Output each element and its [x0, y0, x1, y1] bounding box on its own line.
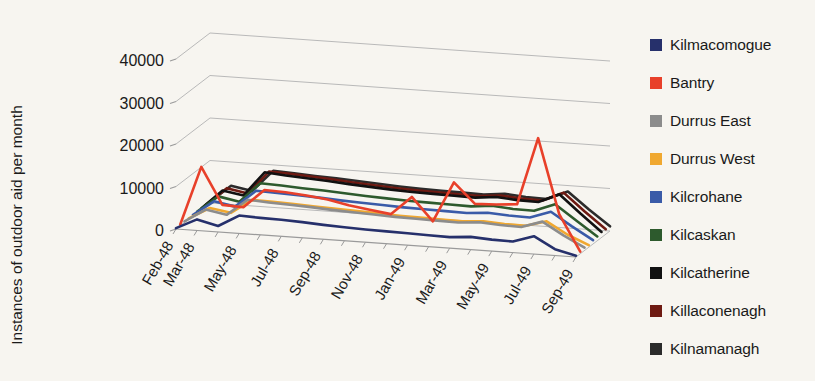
legend-item-kilcrohane[interactable]: Kilcrohane [650, 178, 815, 216]
y-tick-label: 40000 [120, 52, 165, 69]
legend-item-durrus west[interactable]: Durrus West [650, 140, 815, 178]
gridline-20000 [210, 118, 610, 146]
x-tick-label: Nov-48 [327, 251, 366, 301]
legend-item-kilcaskan[interactable]: Kilcaskan [650, 216, 815, 254]
x-tick-label: Sep-48 [285, 248, 324, 298]
x-tick [299, 238, 302, 243]
x-tick-label: Jul-48 [247, 245, 282, 289]
x-tick [552, 256, 555, 261]
x-tick [341, 241, 344, 246]
legend-swatch-icon [650, 229, 662, 241]
y-tick [170, 102, 176, 104]
chart-legend: KilmacomogueBantryDurrus EastDurrus West… [650, 26, 815, 368]
y-tick-label: 10000 [120, 180, 165, 197]
legend-swatch-icon [650, 39, 662, 51]
legend-item-label: Durrus East [670, 112, 751, 130]
legend-swatch-icon [650, 305, 662, 317]
x-tick-label: Mar-49 [412, 257, 450, 307]
legend-item-label: Kilcaskan [670, 226, 735, 244]
x-tick [257, 235, 260, 240]
gridline-30000 [210, 76, 610, 104]
x-tick [510, 253, 513, 258]
x-tick-labels: Feb-48Mar-48May-48Jul-48Sep-48Nov-48Jan-… [138, 238, 576, 316]
x-tick [320, 239, 323, 244]
legend-swatch-icon [650, 115, 662, 127]
x-tick [573, 257, 576, 262]
x-tick-label: Sep-49 [538, 266, 577, 316]
x-tick [278, 236, 281, 241]
gridline-depth-20000 [176, 118, 210, 144]
legend-item-bantry[interactable]: Bantry [650, 64, 815, 102]
legend-item-kilmacomogue[interactable]: Kilmacomogue [650, 26, 815, 64]
legend-swatch-icon [650, 267, 662, 279]
legend-item-label: Kilcrohane [670, 188, 742, 206]
y-tick [170, 59, 176, 61]
chart-container: 010000200003000040000 Feb-48Mar-48May-48… [0, 0, 815, 381]
x-tick [468, 250, 471, 255]
gridline-40000 [210, 33, 610, 61]
legend-item-label: Kilcatherine [670, 264, 750, 282]
legend-item-label: Bantry [670, 74, 714, 92]
legend-item-label: Durrus West [670, 150, 755, 168]
x-tick [447, 248, 450, 253]
y-axis-title: Instances of outdoor aid per month [8, 105, 25, 345]
legend-item-label: Killaconenagh [670, 302, 766, 320]
x-tick [236, 233, 239, 238]
y-tick [170, 187, 176, 189]
x-tick [362, 242, 365, 247]
legend-swatch-icon [650, 153, 662, 165]
x-tick-label: Jan-49 [371, 254, 409, 302]
legend-item-kilnamanagh[interactable]: Kilnamanagh [650, 330, 815, 368]
x-tick [405, 245, 408, 250]
legend-swatch-icon [650, 77, 662, 89]
y-tick-label: 20000 [120, 137, 165, 154]
gridline-depth-40000 [176, 33, 210, 59]
legend-swatch-icon [650, 343, 662, 355]
y-tick-label: 0 [155, 222, 164, 239]
gridline-depth-30000 [176, 76, 210, 102]
data-series-group [176, 138, 610, 256]
x-tick [384, 244, 387, 249]
y-tick-marks [170, 59, 176, 231]
x-tick-label: Jul-49 [499, 263, 534, 307]
legend-item-durrus east[interactable]: Durrus East [650, 102, 815, 140]
y-tick-labels: 010000200003000040000 [120, 52, 165, 239]
x-tick [531, 254, 534, 259]
legend-item-label: Kilnamanagh [670, 340, 759, 358]
legend-item-killaconenagh[interactable]: Killaconenagh [650, 292, 815, 330]
x-tick-label: May-49 [453, 260, 493, 312]
x-tick [194, 230, 197, 235]
x-tick [215, 232, 218, 237]
legend-swatch-icon [650, 191, 662, 203]
x-tick [426, 247, 429, 252]
y-tick [170, 144, 176, 146]
legend-item-kilcatherine[interactable]: Kilcatherine [650, 254, 815, 292]
y-tick-label: 30000 [120, 95, 165, 112]
legend-item-label: Kilmacomogue [670, 36, 771, 54]
x-tick [489, 251, 492, 256]
x-tick-label: May-48 [200, 242, 240, 294]
